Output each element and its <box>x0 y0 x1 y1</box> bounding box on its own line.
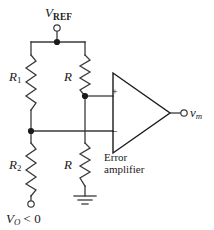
terminal-vo[interactable] <box>28 201 34 207</box>
label-vm-subscript: m <box>196 111 202 121</box>
label-r-bottom-symbol: R <box>64 157 72 172</box>
opamp-inverting-sign: – <box>112 126 117 136</box>
label-error-amplifier: Error amplifier <box>104 151 144 175</box>
label-r-top: R <box>64 70 72 83</box>
label-vo-relation: < 0 <box>20 211 40 226</box>
resistor-rbottom-body <box>80 143 90 186</box>
junction-dot-noninverting <box>82 93 88 99</box>
label-vo: VO < 0 <box>6 212 41 227</box>
circuit-diagram: VREF R1 R R2 R VO < 0 vm Error amplifier… <box>0 0 214 230</box>
opamp-noninverting-sign: + <box>112 87 118 97</box>
label-vref-symbol: V <box>45 5 53 20</box>
resistor-r1-body <box>26 55 36 110</box>
junction-dot-vref <box>54 39 60 45</box>
label-error-amplifier-line2: amplifier <box>104 163 144 175</box>
label-r-bottom: R <box>64 158 72 171</box>
label-r1-symbol: R <box>9 69 17 84</box>
label-error-amplifier-line1: Error <box>104 151 144 163</box>
label-r1: R1 <box>9 70 21 85</box>
label-vm: vm <box>190 106 202 121</box>
label-r-top-symbol: R <box>64 69 72 84</box>
label-vo-symbol: V <box>6 211 14 226</box>
label-r2-symbol: R <box>9 157 17 172</box>
label-vref: VREF <box>45 6 72 22</box>
label-r1-subscript: 1 <box>17 75 21 85</box>
terminal-vref[interactable] <box>54 25 60 31</box>
label-r2: R2 <box>9 158 21 173</box>
schematic-canvas <box>0 0 214 230</box>
terminal-vm-output[interactable] <box>181 110 187 116</box>
resistor-rtop-body <box>80 55 90 96</box>
label-r2-subscript: 2 <box>17 163 21 173</box>
junction-dot-divider <box>28 128 34 134</box>
label-vref-subscript: REF <box>53 12 72 22</box>
opamp-triangle <box>113 73 170 153</box>
resistor-r2-body <box>26 143 36 196</box>
